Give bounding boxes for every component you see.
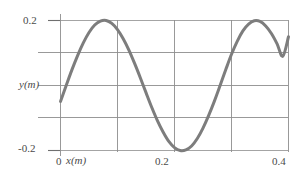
x-tick-label-origin: 0	[56, 156, 62, 167]
y-tick-label-max: 0.2	[23, 15, 37, 26]
x-tick-label-mid: 0.2	[155, 156, 169, 167]
x-axis-title: x(m)	[66, 155, 86, 166]
vertical-gridlines	[61, 14, 289, 156]
wave-plot	[0, 0, 298, 175]
y-axis-title: y(m)	[19, 79, 39, 90]
y-tick-label-min: -0.2	[18, 143, 35, 154]
x-tick-label-max: 0.4	[272, 156, 286, 167]
chart-figure: 0.2 -0.2 y(m) 0 x(m) 0.2 0.4	[0, 0, 298, 175]
